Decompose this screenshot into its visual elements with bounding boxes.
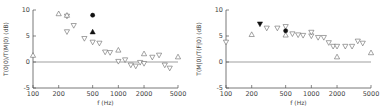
data-point-open-down-triangle xyxy=(82,37,87,42)
x-tick-label: 2000 xyxy=(329,90,346,98)
figure: -50510100200500100020005000f (Hz)T(0|0)/… xyxy=(0,0,387,111)
x-axis-label: f (Hz) xyxy=(97,99,113,106)
data-point-open-down-triangle xyxy=(162,63,167,68)
data-point-open-up-triangle xyxy=(56,11,61,16)
y-tick-label: 10 xyxy=(215,6,223,14)
x-tick-label: 500 xyxy=(86,90,98,98)
data-point-open-up-triangle xyxy=(334,54,339,59)
data-point-open-down-triangle xyxy=(321,35,326,40)
data-point-open-down-triangle xyxy=(300,33,305,38)
x-tick-label: 100 xyxy=(27,90,39,98)
y-axis-label: T(0|0)/T(M|0) (dB) xyxy=(2,22,10,77)
y-tick-label: 10 xyxy=(22,6,30,14)
data-point-open-down-triangle xyxy=(156,53,161,58)
y-tick-label: 0 xyxy=(26,58,30,66)
data-point-open-down-triangle xyxy=(360,41,365,46)
x-tick-label: 5000 xyxy=(363,90,380,98)
data-point-filled-up-triangle xyxy=(90,29,95,34)
data-point-open-down-triangle xyxy=(103,50,108,55)
data-point-open-down-triangle xyxy=(349,44,354,49)
data-point-filled-circle xyxy=(91,13,95,17)
data-point-open-down-triangle xyxy=(64,30,69,35)
x-tick-label: 1000 xyxy=(303,90,320,98)
y-tick-label: 0 xyxy=(219,58,223,66)
data-point-open-up-triangle xyxy=(116,47,121,52)
y-tick-label: 5 xyxy=(219,32,223,40)
data-point-open-down-triangle xyxy=(97,41,102,46)
data-point-open-down-triangle xyxy=(107,51,112,56)
x-tick-label: 200 xyxy=(245,90,257,98)
data-point-open-down-triangle xyxy=(264,26,269,31)
data-point-open-up-triangle xyxy=(141,51,146,56)
data-point-open-up-triangle xyxy=(175,54,180,59)
x-tick-label: 5000 xyxy=(170,90,187,98)
data-point-open-down-triangle xyxy=(167,66,172,71)
x-axis-label: f (Hz) xyxy=(290,99,306,106)
data-point-open-down-triangle xyxy=(316,35,321,40)
data-point-open-down-triangle xyxy=(343,44,348,49)
chart-panel-2: -50510100200500100020005000f (Hz)T(M|0)/… xyxy=(195,6,379,106)
data-point-open-down-triangle xyxy=(141,61,146,66)
x-tick-label: 1000 xyxy=(110,90,127,98)
data-point-open-up-triangle xyxy=(30,53,35,58)
data-point-open-down-triangle xyxy=(334,44,339,49)
data-point-open-down-triangle xyxy=(90,40,95,45)
data-point-open-up-triangle xyxy=(249,32,254,37)
data-point-open-down-triangle xyxy=(275,26,280,31)
data-point-open-down-triangle xyxy=(223,40,228,45)
data-point-filled-down-triangle xyxy=(257,22,262,27)
y-axis-label: T(M|0)/T(F|0) (dB) xyxy=(195,22,203,77)
x-tick-label: 2000 xyxy=(136,90,153,98)
data-point-open-down-triangle xyxy=(71,24,76,29)
data-point-open-up-triangle xyxy=(368,50,373,55)
chart-panel-1: -50510100200500100020005000f (Hz)T(0|0)/… xyxy=(2,6,186,106)
data-point-open-down-triangle xyxy=(133,64,138,69)
data-point-open-down-triangle xyxy=(128,63,133,68)
y-tick-label: 5 xyxy=(26,32,30,40)
data-point-open-down-triangle xyxy=(296,33,301,38)
data-point-open-down-triangle xyxy=(150,55,155,60)
data-point-open-down-triangle xyxy=(355,39,360,44)
x-tick-label: 200 xyxy=(52,90,64,98)
x-tick-label: 500 xyxy=(279,90,291,98)
data-point-filled-circle xyxy=(284,29,288,33)
x-tick-label: 100 xyxy=(220,90,232,98)
data-point-open-down-triangle xyxy=(290,32,295,37)
